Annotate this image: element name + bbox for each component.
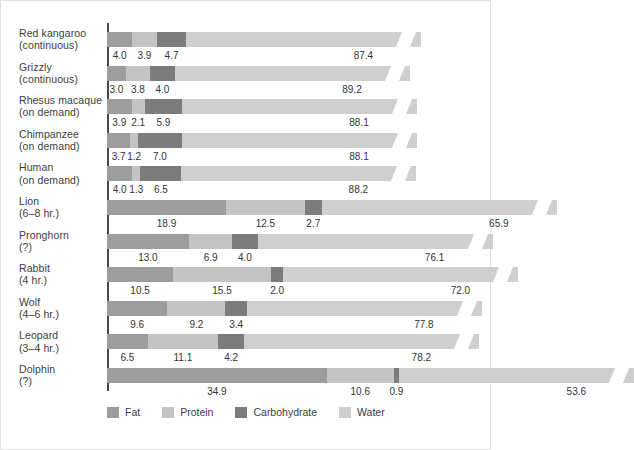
- bar-segment-water: [175, 66, 410, 81]
- value-label-protein: 9.2: [190, 318, 204, 331]
- value-label-fat: 3.7: [112, 150, 126, 163]
- bar-segment-fat: [107, 200, 226, 215]
- bar-segment-fat: [107, 301, 167, 316]
- bar-segment-protein: [132, 99, 145, 114]
- row-label: Human(on demand): [19, 161, 103, 185]
- table-row: [107, 99, 417, 114]
- row-label-line1: Grizzly: [19, 61, 52, 73]
- value-label-protein: 1.2: [127, 150, 141, 163]
- value-label-protein: 12.5: [256, 217, 275, 230]
- row-label-line2: (4–6 hr.): [19, 308, 103, 320]
- table-row: [107, 267, 518, 282]
- bar-segment-fat: [107, 99, 132, 114]
- plot-area: Red kangaroo(continuous)4.03.94.787.4Gri…: [1, 1, 492, 450]
- table-row: [107, 234, 493, 249]
- value-label-carb: 0.9: [390, 385, 404, 398]
- value-label-protein: 2.1: [131, 116, 145, 129]
- value-label-water: 89.2: [342, 83, 361, 96]
- value-label-protein: 3.9: [138, 49, 152, 62]
- row-label-line1: Leopard: [19, 329, 58, 341]
- value-label-fat: 3.0: [109, 83, 123, 96]
- bar-segment-fat: [107, 66, 126, 81]
- bar-segment-fat: [107, 334, 148, 349]
- legend-item-carbohydrate: Carbohydrate: [235, 406, 317, 418]
- row-label-line2: (?): [19, 241, 103, 253]
- row-value-labels: 4.03.94.787.4: [107, 49, 487, 62]
- row-label-line2: (on demand): [19, 106, 103, 118]
- row-label: Pronghorn(?): [19, 229, 103, 253]
- bar-segment-carb: [145, 99, 182, 114]
- bar-segment-protein: [189, 234, 232, 249]
- bar-segment-protein: [173, 267, 271, 282]
- bar-segment-water: [186, 32, 421, 47]
- value-label-water: 77.8: [414, 318, 433, 331]
- bar-segment-protein: [132, 166, 140, 181]
- row-value-labels: 18.912.52.765.9: [107, 217, 487, 230]
- row-label: Rhesus macaque(on demand): [19, 94, 103, 118]
- bar-segment-fat: [107, 234, 189, 249]
- chart-legend: Fat Protein Carbohydrate Water: [107, 405, 407, 419]
- value-label-fat: 13.0: [138, 251, 157, 264]
- legend-label-fat: Fat: [125, 406, 140, 418]
- value-label-protein: 1.3: [129, 183, 143, 196]
- legend-swatch-fat-icon: [107, 407, 119, 418]
- bar-segment-carb: [138, 133, 182, 148]
- value-label-water: 72.0: [451, 284, 470, 297]
- bar-segment-water: [322, 200, 557, 215]
- value-label-protein: 11.1: [174, 351, 193, 364]
- row-label-line2: (?): [19, 375, 103, 387]
- bar-segment-fat: [107, 267, 173, 282]
- bar-segment-carb: [140, 166, 181, 181]
- row-label-line1: Wolf: [19, 296, 40, 308]
- row-label-line1: Pronghorn: [19, 229, 69, 241]
- value-label-fat: 4.0: [113, 183, 127, 196]
- value-label-water: 88.1: [349, 116, 368, 129]
- table-row: [107, 301, 482, 316]
- table-row: [107, 133, 417, 148]
- bar-segment-protein: [327, 368, 394, 383]
- row-value-labels: 4.01.36.588.2: [107, 183, 487, 196]
- row-label-line2: (on demand): [19, 140, 103, 152]
- value-label-water: 65.9: [489, 217, 508, 230]
- row-value-labels: 6.511.14.278.2: [107, 351, 487, 364]
- legend-swatch-carbohydrate-icon: [235, 407, 247, 418]
- value-label-protein: 15.5: [212, 284, 231, 297]
- table-row: [107, 166, 416, 181]
- table-row: [107, 200, 557, 215]
- value-label-carb: 4.2: [224, 351, 238, 364]
- value-label-water: 76.1: [425, 251, 444, 264]
- row-label-line2: (6–8 hr.): [19, 207, 103, 219]
- bar-segment-fat: [107, 368, 327, 383]
- row-label-line1: Rabbit: [19, 262, 50, 274]
- row-label-line2: (on demand): [19, 174, 103, 186]
- value-label-carb: 4.7: [165, 49, 179, 62]
- bar-segment-protein: [126, 66, 150, 81]
- bar-segment-water: [182, 133, 417, 148]
- row-label-line2: (4 hr.): [19, 274, 103, 286]
- bar-segment-fat: [107, 166, 132, 181]
- row-label: Dolphin(?): [19, 363, 103, 387]
- row-value-labels: 3.03.84.089.2: [107, 83, 487, 96]
- row-label: Chimpanzee(on demand): [19, 128, 103, 152]
- bar-segment-water: [399, 368, 634, 383]
- row-label-line1: Chimpanzee: [19, 128, 79, 140]
- table-row: [107, 66, 410, 81]
- bar-segment-carb: [157, 32, 187, 47]
- value-label-fat: 18.9: [157, 217, 176, 230]
- legend-label-protein: Protein: [180, 406, 213, 418]
- bar-segment-protein: [132, 32, 157, 47]
- value-label-protein: 3.8: [131, 83, 145, 96]
- bar-segment-fat: [107, 32, 132, 47]
- row-label: Leopard(3–4 hr.): [19, 329, 103, 353]
- bar-segment-protein: [130, 133, 138, 148]
- table-row: [107, 368, 634, 383]
- row-label: Rabbit(4 hr.): [19, 262, 103, 286]
- value-label-water: 78.2: [412, 351, 431, 364]
- bar-segment-water: [244, 334, 479, 349]
- row-label: Lion(6–8 hr.): [19, 195, 103, 219]
- bar-segment-water: [283, 267, 518, 282]
- row-label: Red kangaroo(continuous): [19, 27, 103, 51]
- row-label-line1: Rhesus macaque: [19, 94, 102, 106]
- row-value-labels: 10.515.52.072.0: [107, 284, 487, 297]
